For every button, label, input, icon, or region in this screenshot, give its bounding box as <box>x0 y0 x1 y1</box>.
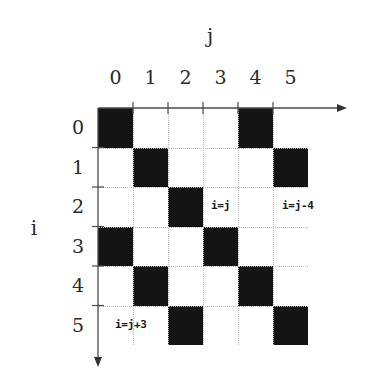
row-label-0: 0 <box>58 118 84 137</box>
matrix-cell-5-5 <box>273 306 308 346</box>
row-label-4: 4 <box>58 276 84 295</box>
annotation-main-diagonal: i=j <box>211 199 230 212</box>
matrix-plot-area <box>98 108 308 345</box>
matrix-cell-0-2 <box>168 108 203 148</box>
matrix-cell-0-0 <box>98 108 133 148</box>
matrix-cell-3-4 <box>238 227 273 267</box>
matrix-cell-2-1 <box>133 187 168 227</box>
row-label-1: 1 <box>58 158 84 177</box>
matrix-cell-0-1 <box>133 108 168 148</box>
column-label-3: 3 <box>203 68 238 87</box>
matrix-cell-0-5 <box>273 108 308 148</box>
matrix-cell-1-1 <box>133 148 168 188</box>
matrix-cell-1-2 <box>168 148 203 188</box>
matrix-cell-3-0 <box>98 227 133 267</box>
y-axis-title: i <box>22 218 46 238</box>
matrix-cell-2-4 <box>238 187 273 227</box>
x-axis-title: j <box>198 26 222 46</box>
matrix-cell-1-5 <box>273 148 308 188</box>
column-label-0: 0 <box>98 68 133 87</box>
row-label-2: 2 <box>58 197 84 216</box>
matrix-cell-3-5 <box>273 227 308 267</box>
matrix-cell-4-4 <box>238 266 273 306</box>
matrix-diagram-figure: j i 0 1 2 3 4 5 0 1 2 3 4 5 <box>0 0 368 382</box>
matrix-cell-4-3 <box>203 266 238 306</box>
matrix-cell-0-4 <box>238 108 273 148</box>
matrix-grid <box>98 108 308 345</box>
column-label-5: 5 <box>273 68 308 87</box>
matrix-cell-5-3 <box>203 306 238 346</box>
matrix-cell-1-0 <box>98 148 133 188</box>
matrix-cell-3-2 <box>168 227 203 267</box>
matrix-cell-5-2 <box>168 306 203 346</box>
matrix-cell-4-1 <box>133 266 168 306</box>
column-label-2: 2 <box>168 68 203 87</box>
row-label-5: 5 <box>58 316 84 335</box>
column-label-1: 1 <box>133 68 168 87</box>
matrix-cell-0-3 <box>203 108 238 148</box>
matrix-cell-2-0 <box>98 187 133 227</box>
annotation-upper-diagonal: i=j-4 <box>282 199 314 212</box>
matrix-cell-3-3 <box>203 227 238 267</box>
matrix-cell-4-0 <box>98 266 133 306</box>
row-label-3: 3 <box>58 237 84 256</box>
matrix-cell-1-4 <box>238 148 273 188</box>
column-label-4: 4 <box>238 68 273 87</box>
matrix-cell-1-3 <box>203 148 238 188</box>
matrix-cell-2-2 <box>168 187 203 227</box>
matrix-cell-4-5 <box>273 266 308 306</box>
matrix-cell-4-2 <box>168 266 203 306</box>
annotation-lower-diagonal: i=j+3 <box>115 318 147 331</box>
matrix-cell-5-4 <box>238 306 273 346</box>
matrix-cell-3-1 <box>133 227 168 267</box>
